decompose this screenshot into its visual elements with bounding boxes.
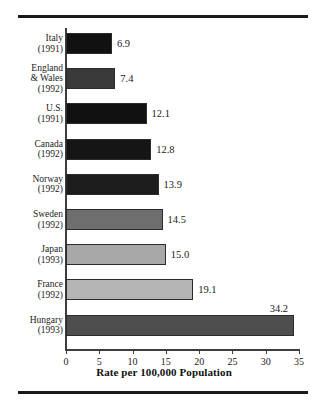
x-tick-mark	[66, 349, 67, 354]
bar	[66, 244, 166, 265]
bar-value-label: 6.9	[117, 33, 130, 54]
x-tick-mark	[199, 349, 200, 354]
bar	[66, 68, 115, 89]
bar-value-label: 15.0	[171, 244, 189, 265]
bottom-rule	[18, 391, 308, 394]
bar-row: England & Wales (1992)7.4	[0, 68, 328, 89]
bar-row: France (1992)19.1	[0, 279, 328, 300]
bar-row: Italy (1991)6.9	[0, 33, 328, 54]
bar	[66, 174, 159, 195]
plot-area: Italy (1991)6.9England & Wales (1992)7.4…	[0, 28, 328, 353]
x-tick-mark	[99, 349, 100, 354]
x-tick-mark	[299, 349, 300, 354]
category-label: Sweden (1992)	[5, 209, 63, 230]
category-label: Japan (1993)	[5, 244, 63, 265]
bar-row: Canada (1992)12.8	[0, 139, 328, 160]
x-tick-mark	[166, 349, 167, 354]
bar-row: Hungary (1993)34.2	[0, 315, 328, 336]
bar	[66, 139, 151, 160]
x-tick-mark	[232, 349, 233, 354]
x-tick-mark	[266, 349, 267, 354]
x-tick-mark	[133, 349, 134, 354]
category-label: Hungary (1993)	[5, 315, 63, 336]
bar	[66, 103, 147, 124]
bar-value-label: 34.2	[270, 303, 288, 314]
category-label: France (1992)	[5, 279, 63, 300]
bar-row: Japan (1993)15.0	[0, 244, 328, 265]
bar-value-label: 14.5	[168, 209, 186, 230]
bar-value-label: 12.1	[152, 103, 170, 124]
bar-row: U.S. (1991)12.1	[0, 103, 328, 124]
top-rule	[18, 15, 308, 18]
category-label: Norway (1992)	[5, 174, 63, 195]
bar	[66, 209, 163, 230]
bar-row: Sweden (1992)14.5	[0, 209, 328, 230]
bar-value-label: 13.9	[164, 174, 182, 195]
category-label: Canada (1992)	[5, 139, 63, 160]
category-label: U.S. (1991)	[5, 103, 63, 124]
x-axis-title: Rate per 100,000 Population	[0, 366, 328, 378]
bar	[66, 315, 294, 336]
bar	[66, 33, 112, 54]
bar	[66, 279, 193, 300]
category-label: Italy (1991)	[5, 33, 63, 54]
category-label: England & Wales (1992)	[5, 63, 63, 95]
bar-value-label: 19.1	[198, 279, 216, 300]
bar-row: Norway (1992)13.9	[0, 174, 328, 195]
bar-chart-figure: Italy (1991)6.9England & Wales (1992)7.4…	[0, 0, 328, 405]
bar-value-label: 7.4	[120, 68, 133, 89]
bar-value-label: 12.8	[156, 139, 174, 160]
